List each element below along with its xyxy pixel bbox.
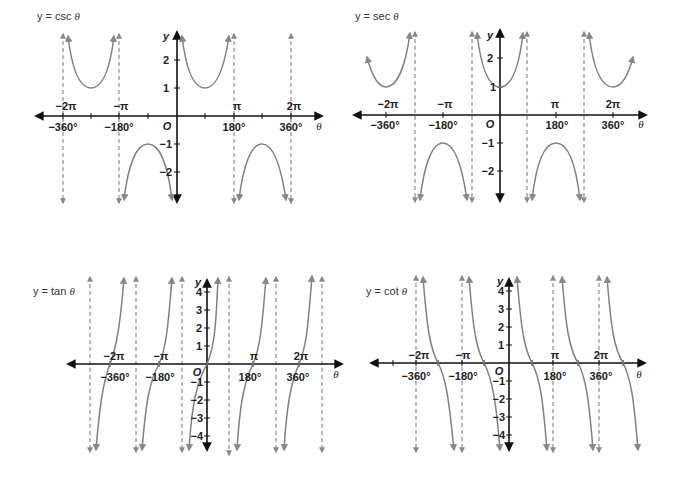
cot-origin-label: O — [495, 365, 504, 377]
tan-pilabel-neg2pi: −2π — [104, 350, 126, 362]
tan-ytick-neg4: −4 — [190, 430, 203, 442]
sec-ytick-1: 1 — [490, 81, 496, 93]
sec-pilabel-negpi: −π — [438, 98, 453, 110]
sec-xtick-neg360: −360° — [370, 119, 399, 131]
tan-pilabel-2pi: 2π — [294, 350, 309, 362]
sec-xtick-360: 360° — [602, 119, 625, 131]
cot-pilabel-negpi: −π — [456, 349, 471, 361]
cot-pilabel-pi: π — [551, 349, 560, 361]
tan-ytick-3: 3 — [196, 304, 202, 316]
tan-ytick-2: 2 — [196, 322, 202, 334]
tan-y-axis-label: y — [194, 276, 202, 288]
sec-y-axis-label: y — [486, 29, 494, 41]
tan-ytick-neg3: −3 — [190, 412, 203, 424]
csc-xtick-neg360: −360° — [48, 121, 77, 133]
tan-xtick-180: 180° — [239, 371, 262, 383]
cot-x-axis-label: θ — [636, 368, 642, 380]
sec-ytick-2: 2 — [487, 52, 493, 64]
tan-pilabel-pi: π — [250, 350, 259, 362]
cot-ytick-neg2: −2 — [492, 393, 505, 405]
sec-pilabel-neg2pi: −2π — [378, 98, 400, 110]
cot-xtick-180: 180° — [544, 370, 567, 382]
cot-ytick-neg4: −4 — [492, 429, 505, 441]
sec-ytick-neg2: −2 — [481, 165, 494, 177]
csc-graph: −360° −180° 180° 360° −2π −π π 2π 2 1 −1… — [36, 30, 322, 203]
csc-ytick-neg2: −2 — [159, 166, 172, 178]
csc-pilabel-neg2pi: −2π — [56, 100, 78, 112]
csc-ytick-2: 2 — [163, 54, 169, 66]
sec-xtick-180: 180° — [546, 119, 569, 131]
tan-xtick-neg180: −180° — [145, 371, 174, 383]
tan-xtick-360: 360° — [287, 371, 310, 383]
csc-y-axis-label: y — [162, 30, 170, 42]
sec-pilabel-2pi: 2π — [606, 98, 621, 110]
trig-graphs-figure: y = csc θ y = sec θ y = tan θ y = cot θ — [0, 0, 683, 477]
cot-xtick-neg180: −180° — [448, 370, 477, 382]
sec-origin-label: O — [486, 118, 495, 130]
csc-xtick-neg180: −180° — [104, 121, 133, 133]
tan-pilabel-negpi: −π — [154, 350, 169, 362]
csc-pilabel-2pi: 2π — [287, 100, 302, 112]
csc-xtick-180: 180° — [223, 121, 246, 133]
cot-ytick-neg3: −3 — [492, 411, 505, 423]
tan-xtick-neg360: −360° — [100, 371, 129, 383]
cot-ytick-2: 2 — [498, 321, 504, 333]
csc-origin-label: O — [163, 120, 172, 132]
cot-pilabel-neg2pi: −2π — [409, 349, 431, 361]
csc-x-axis-label: θ — [316, 120, 322, 132]
csc-pilabel-pi: π — [233, 100, 242, 112]
tan-x-axis-label: θ — [333, 368, 339, 380]
sec-xtick-neg180: −180° — [428, 119, 457, 131]
csc-ytick-neg1: −1 — [159, 138, 172, 150]
cot-asymptotes — [416, 276, 599, 452]
csc-xtick-360: 360° — [280, 121, 303, 133]
cot-xtick-neg360: −360° — [401, 370, 430, 382]
csc-pilabel-negpi: −π — [114, 100, 129, 112]
cot-y-axis-label: y — [496, 275, 504, 287]
sec-pilabel-pi: π — [551, 98, 560, 110]
tan-origin-label: O — [193, 366, 202, 378]
sec-x-axis-label: θ — [638, 118, 644, 130]
tan-graph: −360° −180° 180° 360° −2π −π π 2π 4 3 2 … — [68, 276, 342, 455]
cot-pilabel-2pi: 2π — [594, 349, 609, 361]
plots-canvas: −360° −180° 180° 360° −2π −π π 2π 2 1 −1… — [0, 0, 683, 477]
cot-ytick-3: 3 — [498, 303, 504, 315]
cot-xtick-360: 360° — [590, 370, 613, 382]
tan-curves — [96, 276, 312, 450]
cot-graph: −360° −180° 180° 360° −2π −π π 2π 4 3 2 … — [371, 275, 645, 452]
csc-ytick-1: 1 — [163, 82, 169, 94]
tan-ytick-1: 1 — [196, 340, 202, 352]
cot-ytick-1: 1 — [498, 339, 504, 351]
sec-graph: −360° −180° 180° 360° −2π −π π 2π 2 1 −1… — [354, 29, 646, 202]
sec-ytick-neg1: −1 — [481, 137, 494, 149]
tan-ytick-neg2: −2 — [190, 394, 203, 406]
